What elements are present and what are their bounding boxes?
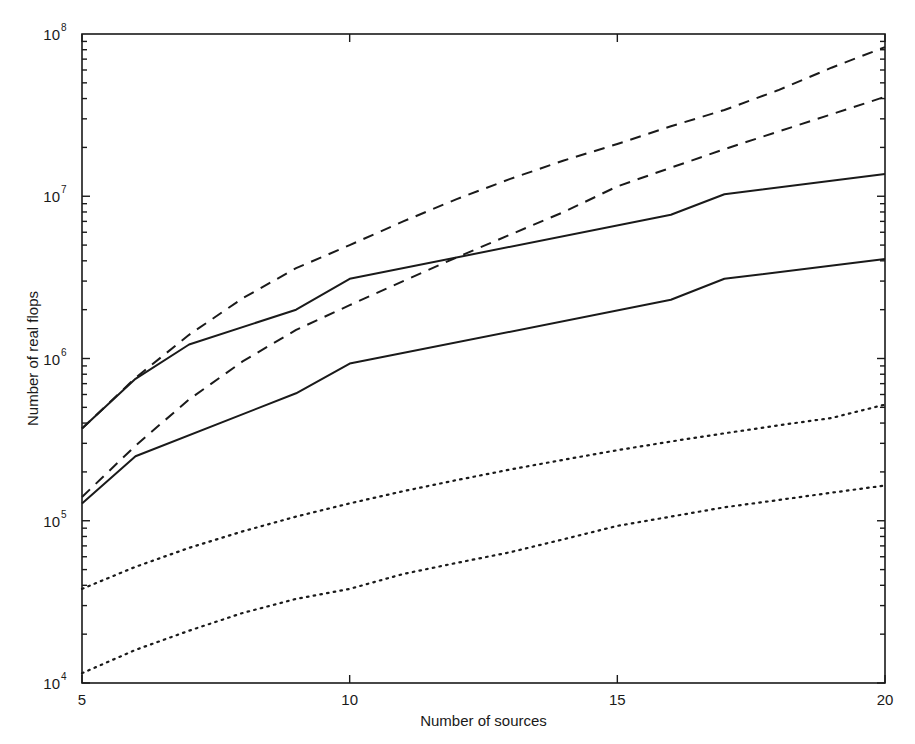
series-dotted-lower — [82, 486, 885, 674]
chart: 5101520 104105106107108 Number of source… — [0, 0, 915, 744]
y-tick-label: 10 — [43, 675, 60, 692]
y-tick-exponent: 7 — [61, 184, 67, 195]
x-tick-labels: 5101520 — [78, 691, 894, 708]
y-tick-label: 10 — [43, 513, 60, 530]
y-tick-label: 10 — [43, 188, 60, 205]
ticks-layer — [82, 34, 885, 683]
x-tick-label: 20 — [877, 691, 894, 708]
series-dashed-upper — [82, 47, 885, 429]
y-tick-labels: 104105106107108 — [43, 22, 67, 692]
y-tick-exponent: 8 — [61, 22, 67, 33]
series-layer — [82, 47, 885, 673]
series-dotted-upper — [82, 405, 885, 589]
y-tick-label: 10 — [43, 26, 60, 43]
y-tick-exponent: 4 — [61, 671, 67, 682]
y-axis-label: Number of real flops — [24, 291, 41, 426]
series-solid-lower — [82, 259, 885, 503]
y-tick-label: 10 — [43, 351, 60, 368]
y-tick-exponent: 6 — [61, 347, 67, 358]
x-tick-label: 5 — [78, 691, 86, 708]
series-dashed-lower — [82, 97, 885, 497]
x-axis-label: Number of sources — [420, 712, 547, 729]
plot-frame — [82, 34, 885, 683]
y-tick-exponent: 5 — [61, 509, 67, 520]
x-tick-label: 10 — [341, 691, 358, 708]
x-tick-label: 15 — [609, 691, 626, 708]
